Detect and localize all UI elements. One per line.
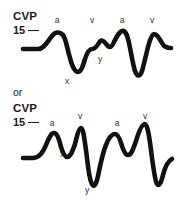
cvp-waveform-figure: CVP 15 a v a v x y or CVP 15 a v a v x y [0,0,179,200]
waveform-trace-abnormal [0,0,179,200]
wave-label-a2-trace-2: a [115,119,120,128]
wave-label-v2-trace-2: v [143,112,147,121]
wave-label-v1-trace-2: v [78,112,82,121]
wave-label-x-descent-trace-2: x [60,150,64,159]
wave-label-a1-trace-2: a [50,119,55,128]
waveform-path-abnormal [23,124,172,186]
wave-label-y-descent-trace-2: y [85,186,89,195]
